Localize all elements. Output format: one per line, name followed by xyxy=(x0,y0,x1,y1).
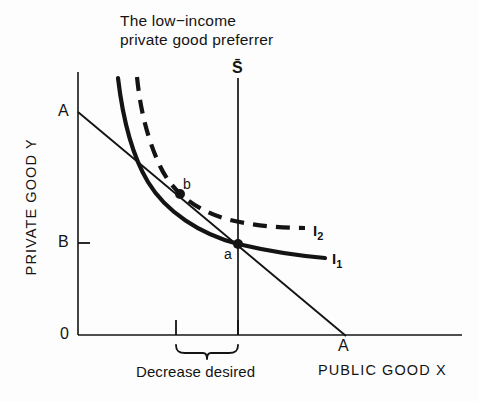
figure-title-line1: The low−income xyxy=(120,12,236,29)
i2-subscript: 2 xyxy=(317,230,323,242)
y-tick-label-a: A xyxy=(58,101,69,121)
decrease-desired-brace xyxy=(176,345,238,359)
budget-line xyxy=(78,112,346,336)
x-axis-label: PUBLIC GOOD X xyxy=(318,362,447,380)
indifference-curve-i1-label: I1 xyxy=(332,250,342,271)
x-intercept-label-a: A xyxy=(338,336,349,356)
decrease-desired-label: Decrease desired xyxy=(136,363,255,381)
point-b-label: b xyxy=(183,176,191,193)
economics-diagram: The low−incomeprivate good preferrer PRI… xyxy=(0,0,478,402)
i1-subscript: 1 xyxy=(336,258,342,270)
indifference-curve-i2 xyxy=(137,77,305,228)
point-a-marker xyxy=(233,239,243,249)
figure-title: The low−incomeprivate good preferrer xyxy=(120,12,273,50)
indifference-curve-i2-label: I2 xyxy=(313,222,323,243)
figure-title-line2: private good preferrer xyxy=(120,31,273,48)
point-a-label: a xyxy=(224,246,232,263)
y-axis-label: PRIVATE GOOD Y xyxy=(23,112,41,302)
origin-label: 0 xyxy=(60,324,69,344)
y-tick-label-b: B xyxy=(58,232,69,252)
supply-line-label: S̄ xyxy=(232,58,243,78)
